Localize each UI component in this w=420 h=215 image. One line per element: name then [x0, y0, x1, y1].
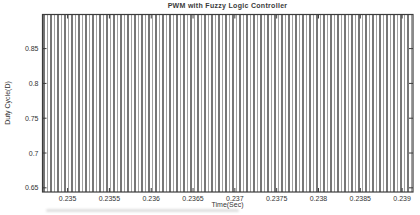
plot-area: 0.2350.23550.2360.23650.2370.23750.2380.…: [0, 0, 420, 215]
y-tick-label: 0.8: [29, 80, 39, 87]
y-tick-label: 0.85: [25, 45, 39, 52]
y-tick-label: 0.75: [25, 115, 39, 122]
y-tick-label: 0.7: [29, 150, 39, 157]
y-tick-label: 0.65: [25, 184, 39, 191]
faded-caption-remnant: [46, 209, 239, 212]
axes-box: [43, 15, 414, 193]
pwm-figure: PWM with Fuzzy Logic Controller Duty Cyc…: [0, 0, 420, 215]
x-axis-label: Time(Sec): [42, 201, 413, 208]
